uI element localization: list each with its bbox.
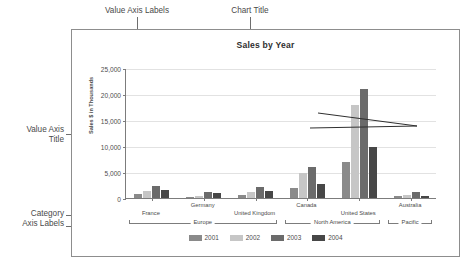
- annotation-value-axis-title: Value Axis Title: [2, 125, 64, 145]
- value-axis-label: 20,000: [101, 92, 121, 99]
- bar-2003-united-states[interactable]: [360, 89, 368, 198]
- category-axis-label-australia: Australia: [399, 202, 422, 208]
- value-axis-label: 10,000: [101, 144, 121, 151]
- bar-group: [178, 69, 230, 198]
- bar-group: [385, 69, 437, 198]
- bar-group: [333, 69, 385, 198]
- value-axis-label: 0: [117, 196, 121, 203]
- bar-2004-france[interactable]: [161, 190, 169, 198]
- legend-swatch-2002: [230, 235, 243, 241]
- leader-value-axis-labels: [137, 17, 138, 29]
- category-group-label-north-america: North America: [311, 219, 354, 225]
- value-axis-label: 5,000: [104, 170, 121, 177]
- bar-group: [126, 69, 178, 198]
- category-axis-label-united-kingdom: United Kingdom: [234, 210, 275, 216]
- value-axis-label: 25,000: [101, 66, 121, 73]
- category-axis-tick: [204, 198, 205, 201]
- legend-item-2002[interactable]: 2002: [230, 234, 260, 241]
- bar-2003-united-kingdom[interactable]: [256, 187, 264, 198]
- bar-2004-united-kingdom[interactable]: [265, 191, 273, 198]
- value-axis-label: 15,000: [101, 118, 121, 125]
- bar-2001-france[interactable]: [134, 194, 142, 198]
- bar-2003-canada[interactable]: [308, 167, 316, 198]
- bar-2002-germany[interactable]: [195, 196, 203, 198]
- annotation-value-axis-labels: Value Axis Labels: [77, 6, 197, 16]
- category-axis-tick: [359, 198, 360, 201]
- bar-2001-united-states[interactable]: [342, 162, 350, 198]
- category-axis-label-canada: Canada: [296, 202, 316, 208]
- annotation-category-axis-labels: Category Axis Labels: [2, 209, 64, 229]
- category-group-label-europe: Europe: [190, 219, 215, 225]
- category-axis-tick: [307, 198, 308, 201]
- bar-2002-australia[interactable]: [403, 195, 411, 198]
- chart-frame: Sales by Year Sales $ in Thousands 05,00…: [71, 29, 460, 257]
- bar-2003-germany[interactable]: [204, 192, 212, 198]
- legend-label-2002: 2002: [246, 234, 260, 241]
- legend-label-2003: 2003: [287, 234, 301, 241]
- leader-chart-title: [250, 17, 251, 29]
- bar-2002-france[interactable]: [143, 191, 151, 198]
- screenshot-root: Value Axis Labels Chart Title Value Axis…: [0, 0, 464, 274]
- bar-2002-united-states[interactable]: [351, 105, 359, 198]
- category-group-label-pacific: Pacific: [399, 219, 422, 225]
- legend-label-2001: 2001: [205, 234, 219, 241]
- bar-2001-australia[interactable]: [394, 196, 402, 198]
- category-axis-label-united-states: United States: [341, 210, 376, 216]
- legend-swatch-2001: [189, 235, 202, 241]
- bar-2002-canada[interactable]: [299, 173, 307, 198]
- category-axis-label-france: France: [142, 210, 160, 216]
- legend-label-2004: 2004: [328, 234, 342, 241]
- bar-2003-france[interactable]: [152, 186, 160, 198]
- bar-2002-united-kingdom[interactable]: [247, 192, 255, 198]
- annotation-chart-title: Chart Title: [197, 6, 303, 16]
- value-axis-tick: [123, 199, 126, 200]
- bar-2001-canada[interactable]: [290, 188, 298, 198]
- bar-2004-united-states[interactable]: [369, 147, 377, 198]
- chart-title: Sales by Year: [72, 40, 459, 50]
- legend-swatch-2004: [312, 235, 325, 241]
- legend-item-2003[interactable]: 2003: [271, 234, 301, 241]
- bar-2003-australia[interactable]: [412, 192, 420, 198]
- bar-2004-germany[interactable]: [213, 193, 221, 198]
- legend-swatch-2003: [271, 235, 284, 241]
- bar-2001-united-kingdom[interactable]: [238, 195, 246, 198]
- category-axis-tick: [411, 198, 412, 201]
- plot-area: 05,00010,00015,00020,00025,000: [125, 69, 436, 199]
- legend-item-2001[interactable]: 2001: [189, 234, 219, 241]
- bar-2004-australia[interactable]: [421, 196, 429, 198]
- category-axis-tick: [256, 198, 257, 201]
- bar-group: [230, 69, 282, 198]
- bar-group: [282, 69, 334, 198]
- value-axis-title: Sales $ in Thousands: [88, 77, 94, 134]
- category-axis-label-germany: Germany: [191, 202, 215, 208]
- legend-item-2004[interactable]: 2004: [312, 234, 342, 241]
- bar-2004-canada[interactable]: [317, 184, 325, 198]
- chart-legend: 2001200220032004: [72, 234, 459, 241]
- category-axis-tick: [152, 198, 153, 201]
- bar-2001-germany[interactable]: [186, 197, 194, 198]
